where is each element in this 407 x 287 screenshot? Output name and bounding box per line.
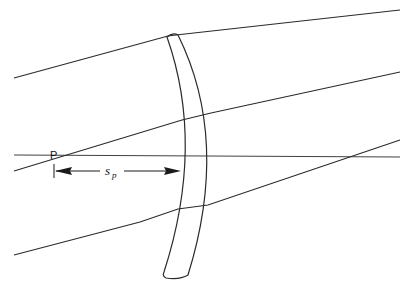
distance-p-subscript: p — [111, 170, 117, 180]
top-ray — [14, 10, 400, 78]
lens-ray-diagram: P s p — [0, 0, 407, 287]
arrowhead-left-icon — [55, 167, 72, 175]
point-p-label: P — [50, 149, 57, 161]
distance-s-label: s — [105, 163, 110, 178]
arrowhead-right-icon — [164, 167, 181, 175]
